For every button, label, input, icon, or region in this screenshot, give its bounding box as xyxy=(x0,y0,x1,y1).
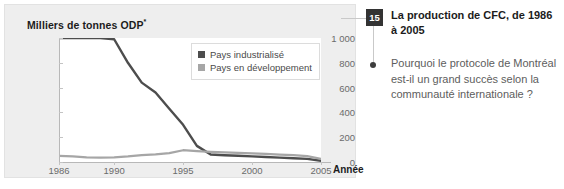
legend-label: Pays en développement xyxy=(210,62,312,73)
legend-item-pays-en-developpement: Pays en développement xyxy=(198,61,312,74)
question-body-text: Pourquoi le protocole de Montréal est-il… xyxy=(391,56,561,103)
y-axis-tick-label: 400 xyxy=(307,107,355,118)
x-axis-title: Année xyxy=(333,164,364,175)
x-axis-line xyxy=(59,162,331,163)
y-axis-line xyxy=(59,38,60,163)
legend-item-pays-industrialise: Pays industrialisé xyxy=(198,48,312,61)
x-axis-tick-label: 2005 xyxy=(310,165,331,176)
y-axis-title-superscript: * xyxy=(144,18,147,25)
question-number-badge: 15 xyxy=(366,9,383,26)
legend-label: Pays industrialisé xyxy=(210,49,284,60)
x-axis-tick-label: 1986 xyxy=(48,165,69,176)
connector-horizontal-line xyxy=(341,18,367,19)
x-axis-tick-mark xyxy=(321,162,322,165)
connector-vertical-line xyxy=(373,26,374,64)
y-axis-tick-mark xyxy=(59,88,63,89)
x-axis-tick-mark xyxy=(114,162,115,165)
x-axis-tick-mark xyxy=(59,162,60,165)
y-axis-title-text: Milliers de tonnes ODP xyxy=(27,19,144,31)
question-title: La production de CFC, de 1986 à 2005 xyxy=(391,8,559,37)
x-axis-tick-label: 1995 xyxy=(173,165,194,176)
chart-legend: Pays industrialisé Pays en développement xyxy=(191,43,320,80)
x-axis-tick-mark xyxy=(252,162,253,165)
bullet-point-icon xyxy=(370,62,376,68)
legend-swatch-icon xyxy=(198,64,205,71)
y-axis-tick-label: 200 xyxy=(307,132,355,143)
x-axis-tick-label: 2000 xyxy=(241,165,262,176)
y-axis-tick-mark xyxy=(59,112,63,113)
y-axis-tick-mark xyxy=(59,137,63,138)
y-axis-tick-mark xyxy=(59,63,63,64)
x-axis-tick-mark xyxy=(183,162,184,165)
chart-inner: Milliers de tonnes ODP* 1 00080060040020… xyxy=(5,5,355,177)
y-axis-tick-label: 600 xyxy=(307,82,355,93)
y-axis-tick-mark xyxy=(59,38,63,39)
x-axis-tick-label: 1990 xyxy=(104,165,125,176)
y-axis-title: Milliers de tonnes ODP* xyxy=(27,18,146,31)
chart-panel: Milliers de tonnes ODP* 1 00080060040020… xyxy=(4,4,356,178)
legend-swatch-icon xyxy=(198,51,205,58)
y-axis-tick-label: 1 000 xyxy=(307,33,355,44)
chart-figure-with-question: Milliers de tonnes ODP* 1 00080060040020… xyxy=(0,0,564,189)
